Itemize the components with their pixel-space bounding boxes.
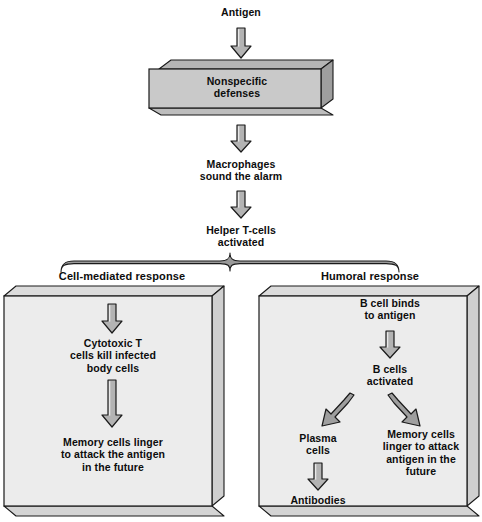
arrow-cytotoxic-to-memory (99, 379, 125, 429)
node-b-cell-binds: B cell bindsto antigen (320, 297, 460, 322)
immune-response-flowchart: Antigen Nonspecificdefenses Macrophagess… (0, 0, 482, 522)
node-antibodies: Antibodies (275, 494, 361, 506)
arrow-antigen-to-defenses (228, 27, 254, 60)
node-helper-t-cells: Helper T-cellsactivated (176, 224, 306, 249)
arrow-b-cell-binds-to-activated (377, 330, 403, 360)
node-b-cells-activated: B cellsactivated (320, 363, 460, 388)
node-nonspecific-defenses: Nonspecificdefenses (159, 75, 315, 100)
arrow-macrophages-to-helper-t (228, 190, 254, 220)
node-macrophages: Macrophagessound the alarm (171, 158, 311, 183)
arrow-activated-to-memory (385, 392, 429, 430)
node-memory-cells-left: Memory cells lingerto attack the antigen… (28, 436, 198, 473)
arrow-plasma-to-antibodies (305, 462, 331, 492)
branch-label-humoral: Humoral response (300, 270, 440, 282)
node-cytotoxic-t-cells: Cytotoxic Tcells kill infectedbody cells (42, 337, 184, 374)
node-memory-cells-right: Memory cellslinger to attackantigen in t… (363, 428, 479, 478)
node-antigen: Antigen (181, 6, 301, 18)
arrow-defenses-to-macrophages (228, 124, 254, 154)
arrow-activated-to-plasma (313, 392, 357, 430)
arrow-left-into-cytotoxic (99, 303, 125, 335)
node-plasma-cells: Plasmacells (275, 432, 361, 457)
branch-label-cell-mediated: Cell-mediated response (42, 270, 202, 282)
